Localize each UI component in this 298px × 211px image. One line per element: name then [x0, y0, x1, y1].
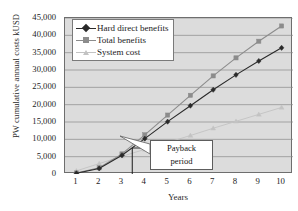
- x-tick-label: 9: [248, 176, 268, 186]
- x-tick-label: 7: [202, 176, 222, 186]
- legend-item: System cost: [75, 46, 168, 58]
- y-tick-label: 15,000: [0, 116, 56, 126]
- x-tick-label: 10: [271, 176, 291, 186]
- legend-label: Total benefits: [97, 35, 146, 46]
- y-tick-label: 10,000: [0, 133, 56, 143]
- legend-item: Total benefits: [75, 34, 168, 46]
- y-tick-label: 35,000: [0, 47, 56, 57]
- data-point: [166, 113, 170, 117]
- y-axis-tick-labels: 05,00010,00015,00020,00025,00030,00035,0…: [0, 0, 64, 211]
- legend-marker-icon: [75, 47, 97, 58]
- y-tick-label: 20,000: [0, 99, 56, 109]
- data-point: [211, 74, 215, 78]
- chart-legend: Hard direct benefitsTotal benefitsSystem…: [72, 19, 174, 61]
- y-tick-label: 30,000: [0, 64, 56, 74]
- payback-callout-line1: Payback: [151, 142, 212, 155]
- data-point: [188, 103, 193, 108]
- data-point: [257, 39, 261, 43]
- y-tick-label: 0: [0, 168, 56, 178]
- data-point: [188, 93, 192, 97]
- y-tick-label: 5,000: [0, 151, 56, 161]
- y-tick-label: 40,000: [0, 29, 56, 39]
- chart-figure: PW cumulative annual costs kUSD 05,00010…: [0, 0, 298, 211]
- x-tick-label: 5: [157, 176, 177, 186]
- data-point: [257, 58, 262, 63]
- data-point: [280, 24, 284, 28]
- payback-callout-line2: period: [151, 155, 212, 168]
- data-point: [211, 87, 216, 92]
- data-point: [234, 72, 239, 77]
- x-tick-label: 1: [65, 176, 85, 186]
- legend-marker-icon: [75, 35, 97, 46]
- x-tick-label: 2: [88, 176, 108, 186]
- legend-label: Hard direct benefits: [97, 23, 168, 34]
- x-tick-label: 4: [134, 176, 154, 186]
- y-tick-label: 25,000: [0, 81, 56, 91]
- x-tick-label: 8: [225, 176, 245, 186]
- data-point: [234, 56, 238, 60]
- x-axis-label: Years: [64, 192, 292, 202]
- x-tick-label: 3: [111, 176, 131, 186]
- legend-label: System cost: [97, 47, 140, 58]
- legend-marker-icon: [75, 23, 97, 34]
- y-tick-label: 45,000: [0, 12, 56, 22]
- data-point: [279, 45, 284, 50]
- payback-period-callout: Payback period: [150, 140, 213, 170]
- data-point: [279, 105, 284, 109]
- legend-item: Hard direct benefits: [75, 22, 168, 34]
- x-tick-label: 6: [179, 176, 199, 186]
